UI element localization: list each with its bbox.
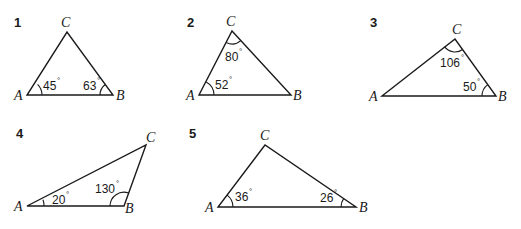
degree-symbol: °: [229, 75, 232, 84]
triangle-1: 1 A B C 45 ° 63 °: [13, 15, 125, 103]
triangle-shape: [382, 39, 496, 96]
vertex-label-b: B: [116, 88, 125, 103]
vertex-label-b: B: [125, 201, 134, 216]
vertex-label-c: C: [146, 130, 156, 145]
triangle-number: 2: [187, 15, 194, 30]
triangle-5: 5 A B C 36 ° 26 °: [189, 126, 368, 215]
vertex-label-a: A: [204, 200, 214, 215]
triangle-number: 3: [370, 15, 377, 30]
vertex-label-c: C: [260, 128, 270, 143]
triangle-shape: [27, 32, 113, 95]
vertex-label-a: A: [13, 199, 23, 214]
vertex-label-a: A: [13, 88, 23, 103]
degree-symbol: °: [239, 47, 242, 56]
angle-arc-a: [206, 82, 214, 95]
angle-arc-a: [43, 200, 44, 206]
triangle-number: 5: [189, 126, 196, 141]
angle-arc-a: [227, 195, 233, 207]
angle-arc-b: [341, 199, 344, 207]
triangle-shape: [27, 145, 146, 206]
angle-value-a: 20: [52, 193, 66, 207]
triangle-number: 1: [14, 15, 21, 30]
angle-value-b: 26: [320, 191, 334, 205]
triangle-shape: [199, 31, 291, 95]
vertex-label-a: A: [185, 88, 195, 103]
angle-arc-a: [38, 84, 42, 95]
angle-arc-c: [226, 41, 241, 44]
degree-symbol: °: [57, 76, 60, 85]
angle-value-b: 130: [95, 182, 115, 196]
triangles-diagram: 1 A B C 45 ° 63 ° 2 A B C 52 ° 80 ° 3 A …: [0, 0, 521, 229]
angle-value-a: 45: [43, 79, 57, 93]
degree-symbol: °: [477, 77, 480, 86]
vertex-label-c: C: [226, 14, 236, 29]
triangle-number: 4: [16, 126, 24, 141]
angle-value-b: 50: [463, 80, 477, 94]
degree-symbol: °: [334, 188, 337, 197]
vertex-label-a: A: [368, 89, 378, 104]
degree-symbol: °: [116, 179, 119, 188]
angle-value-c: 80: [225, 50, 239, 64]
vertex-label-c: C: [61, 15, 71, 30]
triangle-2: 2 A B C 52 ° 80 °: [185, 14, 302, 103]
triangle-4: 4 A B C 20 ° 130 °: [13, 126, 156, 216]
angle-value-c: 106: [440, 56, 460, 70]
degree-symbol: °: [66, 190, 69, 199]
angle-value-a: 36: [235, 190, 249, 204]
angle-arc-b: [482, 85, 488, 96]
angle-arc-c: [445, 47, 463, 52]
angle-arc-b: [100, 85, 105, 96]
degree-symbol: °: [461, 53, 464, 62]
vertex-label-b: B: [293, 88, 302, 103]
degree-symbol: °: [249, 187, 252, 196]
vertex-label-c: C: [452, 22, 462, 37]
vertex-label-b: B: [498, 89, 507, 104]
triangle-3: 3 A B C 106 ° 50 °: [368, 15, 507, 104]
angle-value-a: 52: [215, 78, 229, 92]
angle-value-b: 63: [83, 79, 97, 93]
degree-symbol: °: [97, 76, 100, 85]
vertex-label-b: B: [359, 200, 368, 215]
